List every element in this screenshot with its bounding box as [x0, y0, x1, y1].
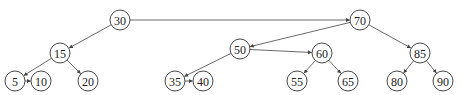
tree-node-15: 15 [50, 43, 70, 63]
edge-85-to-80 [404, 61, 414, 73]
tree-node-80: 80 [387, 71, 407, 91]
edge-70-to-85 [369, 25, 411, 48]
tree-node-30: 30 [110, 10, 130, 30]
node-label: 35 [169, 75, 181, 89]
tree-diagram: 30701550608551020354055658090 [0, 0, 460, 95]
node-label: 65 [342, 75, 354, 89]
edge-85-to-90 [426, 61, 436, 73]
tree-node-5: 5 [5, 71, 25, 91]
node-label: 85 [414, 47, 426, 61]
edge-50-to-60 [250, 49, 312, 52]
tree-node-90: 90 [433, 71, 453, 91]
node-label: 5 [12, 75, 18, 89]
edge-30-to-15 [69, 25, 111, 48]
edge-60-to-65 [329, 60, 341, 73]
edge-15-to-20 [67, 60, 81, 74]
tree-node-70: 70 [350, 10, 370, 30]
node-label: 30 [114, 14, 126, 28]
node-label: 60 [316, 47, 328, 61]
tree-node-50: 50 [230, 39, 250, 59]
node-label: 15 [54, 47, 66, 61]
tree-diagram-svg: 30701550608551020354055658090 [0, 0, 460, 95]
nodes-layer: 30701550608551020354055658090 [5, 10, 453, 91]
node-label: 80 [391, 75, 403, 89]
edge-70-to-50 [250, 22, 350, 46]
tree-node-40: 40 [193, 71, 213, 91]
node-label: 40 [197, 75, 209, 89]
node-label: 10 [35, 75, 47, 89]
node-label: 55 [291, 75, 303, 89]
tree-node-10: 10 [31, 71, 51, 91]
tree-node-60: 60 [312, 43, 332, 63]
tree-node-55: 55 [287, 71, 307, 91]
tree-node-20: 20 [78, 71, 98, 91]
node-label: 20 [82, 75, 94, 89]
node-label: 70 [354, 14, 366, 28]
node-label: 50 [234, 43, 246, 57]
node-label: 90 [437, 75, 449, 89]
tree-node-35: 35 [165, 71, 185, 91]
edge-60-to-55 [304, 60, 315, 73]
tree-node-65: 65 [338, 71, 358, 91]
tree-node-85: 85 [410, 43, 430, 63]
